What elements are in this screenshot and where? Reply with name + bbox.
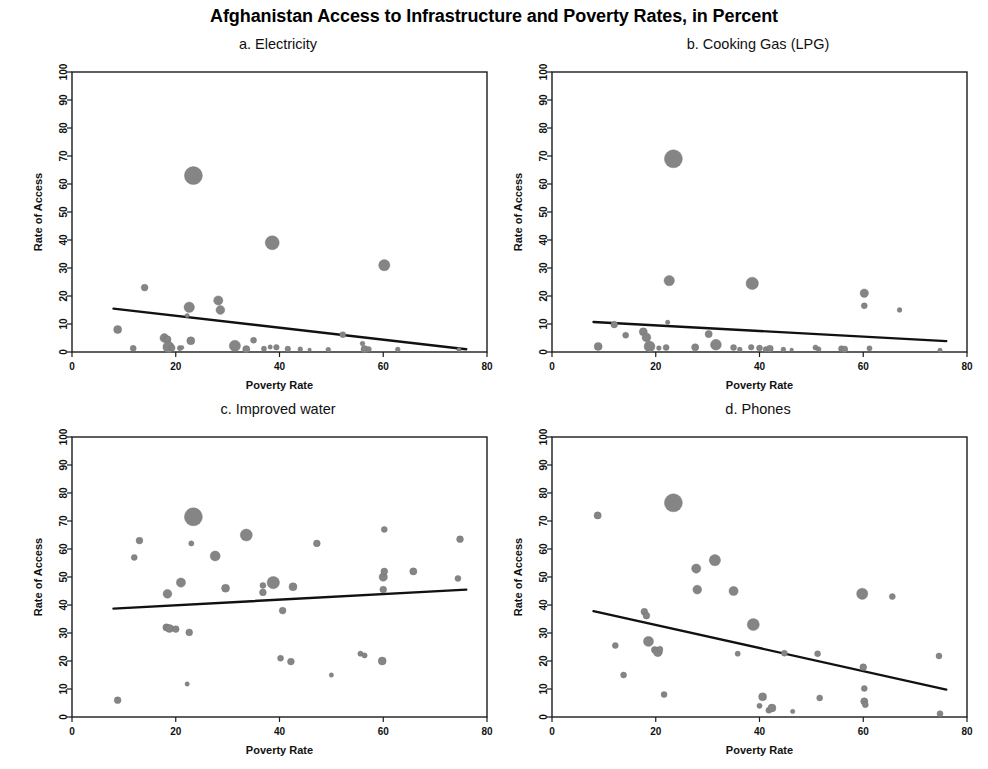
y-tick-label: 30 <box>538 262 549 274</box>
y-tick-label: 30 <box>58 262 69 274</box>
y-tick-label: 100 <box>538 63 549 80</box>
scatter-point <box>663 345 669 351</box>
scatter-point <box>642 333 651 342</box>
scatter-point <box>657 646 663 652</box>
scatter-point <box>114 326 122 334</box>
y-tick-label: 40 <box>538 599 549 611</box>
x-tick-label: 0 <box>549 726 555 737</box>
scatter-point <box>186 629 193 636</box>
scatter-point <box>395 347 400 352</box>
scatter-point <box>857 588 868 599</box>
y-tick-label: 20 <box>58 655 69 667</box>
scatter-point <box>141 284 148 291</box>
y-tick-label: 60 <box>58 178 69 190</box>
y-tick-label: 40 <box>538 234 549 246</box>
scatter-point <box>757 703 762 708</box>
panel-title-a: a. Electricity <box>68 36 488 52</box>
scatter-point <box>731 345 737 351</box>
scatter-point <box>298 347 303 352</box>
scatter-point <box>285 346 291 352</box>
panel-title-b: b. Cooking Gas (LPG) <box>548 36 968 52</box>
scatter-point <box>867 346 872 351</box>
scatter-point <box>612 643 618 649</box>
scatter-point <box>455 575 461 581</box>
panel-title-d: d. Phones <box>548 401 968 417</box>
scatter-point <box>180 346 184 350</box>
x-tick-label: 40 <box>274 361 286 372</box>
scatter-point <box>261 346 266 351</box>
scatter-point <box>889 594 895 600</box>
x-axis-title: Poverty Rate <box>726 744 793 756</box>
scatter-point <box>594 342 602 350</box>
scatter-point <box>768 704 776 712</box>
x-tick-label: 20 <box>170 361 182 372</box>
scatter-point <box>656 346 661 351</box>
scatter-point <box>362 653 367 658</box>
scatter-point <box>781 347 786 352</box>
y-tick-label: 70 <box>538 515 549 527</box>
y-tick-label: 20 <box>538 290 549 302</box>
y-axis-title: Rate of Access <box>32 538 44 616</box>
scatter-point <box>189 541 194 546</box>
x-axis-title: Poverty Rate <box>726 379 793 391</box>
scatter-point <box>664 275 674 285</box>
plot-frame <box>552 437 967 717</box>
scatter-point <box>781 650 787 656</box>
scatter-point <box>267 576 279 588</box>
scatter-point <box>937 711 943 717</box>
scatter-point <box>340 332 346 338</box>
scatter-point <box>288 658 295 665</box>
scatter-plot-d: 0102030405060708090100020406080Poverty R… <box>480 421 988 769</box>
scatter-point <box>131 554 137 560</box>
scatter-point <box>176 578 185 587</box>
scatter-plot-c: 0102030405060708090100020406080Poverty R… <box>0 421 500 769</box>
scatter-point <box>815 651 821 657</box>
y-tick-label: 80 <box>538 122 549 134</box>
scatter-point <box>289 583 297 591</box>
scatter-point <box>184 302 194 312</box>
y-tick-label: 40 <box>58 234 69 246</box>
panel-c-improved-water: 0102030405060708090100020406080Poverty R… <box>0 421 500 769</box>
y-axis-title: Rate of Access <box>512 538 524 616</box>
scatter-point <box>184 167 202 185</box>
scatter-point <box>817 695 823 701</box>
scatter-point <box>664 494 682 512</box>
scatter-point <box>594 512 601 519</box>
y-tick-label: 50 <box>538 206 549 218</box>
panel-a-electricity: 0102030405060708090100020406080Poverty R… <box>0 56 500 396</box>
scatter-point <box>114 697 121 704</box>
scatter-point <box>243 346 250 353</box>
x-axis-title: Poverty Rate <box>246 379 313 391</box>
scatter-point <box>360 341 365 346</box>
scatter-point <box>185 313 189 317</box>
y-tick-label: 90 <box>58 94 69 106</box>
y-tick-label: 70 <box>58 150 69 162</box>
scatter-point <box>747 619 759 631</box>
y-tick-label: 60 <box>538 543 549 555</box>
scatter-point <box>260 582 266 588</box>
scatter-point <box>841 346 847 352</box>
scatter-point <box>735 651 740 656</box>
scatter-point <box>274 344 280 350</box>
y-tick-label: 90 <box>58 459 69 471</box>
y-tick-label: 80 <box>538 487 549 499</box>
x-tick-label: 60 <box>378 361 390 372</box>
scatter-point <box>185 682 189 686</box>
y-tick-label: 50 <box>58 206 69 218</box>
scatter-point <box>265 236 279 250</box>
y-tick-label: 80 <box>58 487 69 499</box>
scatter-point <box>861 685 867 691</box>
scatter-point <box>759 693 767 701</box>
scatter-point <box>790 348 794 352</box>
y-tick-label: 0 <box>58 714 69 720</box>
scatter-point <box>729 586 738 595</box>
scatter-point <box>278 655 284 661</box>
scatter-plot-b: 0102030405060708090100020406080Poverty R… <box>480 56 988 396</box>
scatter-point <box>692 344 699 351</box>
scatter-point <box>366 347 371 352</box>
scatter-point <box>279 607 286 614</box>
scatter-point <box>643 612 650 619</box>
scatter-point <box>938 348 942 352</box>
scatter-point <box>268 345 272 349</box>
y-tick-label: 30 <box>58 627 69 639</box>
